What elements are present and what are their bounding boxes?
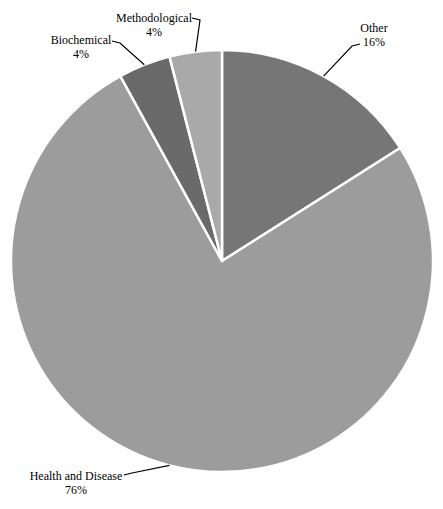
leader-line-health-and-disease (124, 465, 170, 475)
pie-chart-figure: Methodological4%Biochemical4%Other16%Hea… (0, 0, 443, 509)
leader-line-methodological (192, 18, 200, 52)
leader-line-biochemical (112, 41, 144, 65)
leader-line-other (324, 44, 360, 76)
pie-chart-canvas (0, 0, 443, 509)
